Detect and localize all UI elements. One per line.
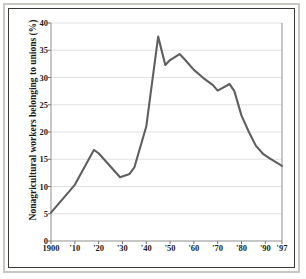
chart-page: Nonagricultural workers belonging to uni… xyxy=(0,0,306,279)
tickmarks-group xyxy=(48,23,282,244)
x-tick-label: '97 xyxy=(267,244,297,253)
chart-plot-area: Nonagricultural workers belonging to uni… xyxy=(0,0,306,279)
gridlines-group xyxy=(51,23,282,214)
chart-svg xyxy=(0,0,306,279)
